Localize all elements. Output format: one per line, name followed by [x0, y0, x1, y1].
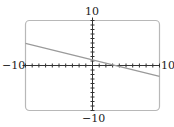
x-min-label: −10 — [2, 60, 25, 71]
axes — [23, 18, 160, 111]
y-max-label: 10 — [85, 6, 99, 17]
y-min-label: −10 — [82, 113, 105, 124]
x-max-label: 10 — [161, 60, 174, 71]
plot-area — [0, 0, 174, 127]
